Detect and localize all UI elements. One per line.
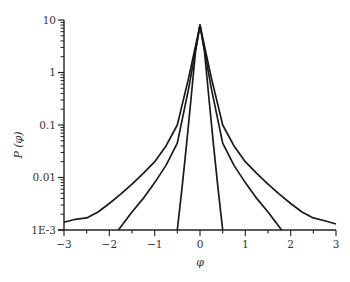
x-axis-title: φ [196, 256, 204, 269]
log-probability-chart: 1E-30.010.1110−3−2−10123φP (φ) [0, 0, 350, 282]
x-tick-label: −3 [56, 238, 71, 250]
axes [58, 20, 336, 236]
y-axis-title: P (φ) [12, 131, 25, 159]
y-tick-label: 1 [49, 66, 56, 78]
series-line-2 [118, 25, 281, 230]
series-group [64, 25, 336, 230]
x-tick-label: 2 [287, 238, 294, 250]
x-tick-label: −1 [147, 238, 162, 250]
series-line-3 [177, 25, 222, 230]
x-tick-label: −2 [102, 238, 117, 250]
y-tick-label: 0.1 [39, 119, 56, 131]
y-tick-label: 0.01 [33, 171, 56, 183]
x-tick-label: 0 [197, 238, 204, 250]
x-tick-label: 1 [242, 238, 249, 250]
x-tick-label: 3 [333, 238, 340, 250]
y-tick-label: 10 [43, 14, 56, 26]
series-line-1 [64, 25, 336, 224]
y-tick-label: 1E-3 [31, 224, 56, 236]
